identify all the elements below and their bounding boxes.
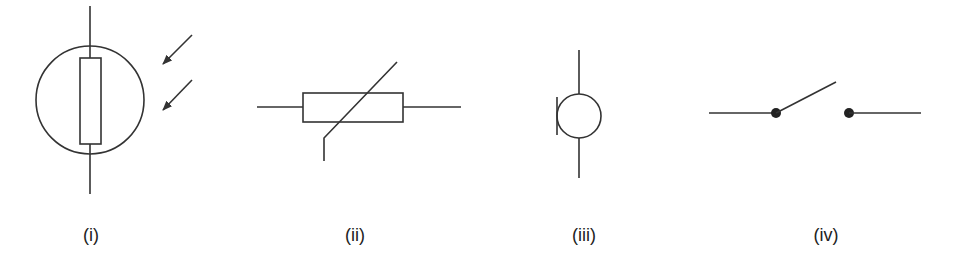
thermistor-symbol bbox=[257, 62, 461, 161]
switch-symbol bbox=[709, 82, 921, 118]
label-iii: (iii) bbox=[572, 225, 596, 245]
thermistor-variable-line bbox=[324, 62, 397, 161]
label-ii: (ii) bbox=[345, 225, 365, 245]
ldr-symbol bbox=[36, 6, 192, 194]
label-iv: (iv) bbox=[814, 225, 839, 245]
ldr-resistor-body bbox=[80, 58, 101, 144]
ldr-circle bbox=[36, 46, 144, 154]
circuit-symbols-diagram: (i) (ii) (iii) (iv) bbox=[0, 0, 958, 257]
switch-blade bbox=[776, 82, 836, 113]
mic-circle bbox=[557, 94, 601, 138]
light-arrow-icon bbox=[163, 80, 192, 110]
microphone-symbol bbox=[557, 50, 601, 178]
light-arrow-icon bbox=[163, 35, 192, 64]
label-i: (i) bbox=[83, 225, 99, 245]
